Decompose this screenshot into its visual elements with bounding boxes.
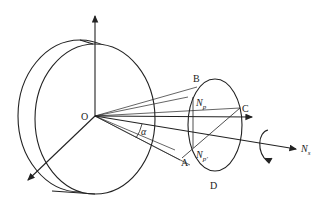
- label-np-prime: Np': [195, 149, 208, 163]
- label-ns: Ns: [300, 143, 311, 157]
- diagram-canvas: O B C A D α Np Np' Ns: [0, 0, 325, 200]
- label-np: Np: [195, 97, 207, 111]
- label-origin: O: [81, 111, 88, 122]
- label-point-c: C: [242, 103, 249, 114]
- label-point-a: A: [181, 157, 189, 168]
- label-point-d: D: [210, 180, 217, 191]
- label-alpha: α: [141, 126, 147, 137]
- chord-ac: [182, 108, 240, 158]
- cross-section: [182, 79, 242, 171]
- label-point-b: B: [193, 73, 200, 84]
- rotation-arrow-icon: [260, 130, 272, 163]
